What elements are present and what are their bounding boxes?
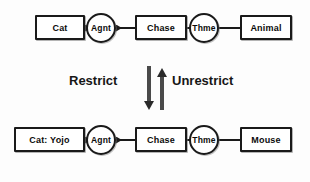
node-concept-chase-bottom[interactable]: Chase	[135, 127, 187, 152]
node-concept-mouse[interactable]: Mouse	[240, 127, 292, 152]
unrestrict-arrow-up	[157, 68, 167, 110]
node-label: Mouse	[251, 135, 281, 145]
node-label: Chase	[147, 135, 175, 145]
node-label: Thme	[192, 135, 215, 145]
node-relation-thme-bottom[interactable]: Thme	[189, 125, 219, 155]
restrict-label: Restrict	[69, 73, 117, 88]
node-concept-cat-yojo[interactable]: Cat: Yojo	[14, 127, 85, 152]
node-label: Cat: Yojo	[29, 135, 69, 145]
node-concept-cat[interactable]: Cat	[35, 15, 85, 40]
unrestrict-label: Unrestrict	[172, 73, 233, 88]
node-label: Thme	[192, 23, 215, 33]
node-label: Agnt	[91, 135, 111, 145]
node-relation-thme-top[interactable]: Thme	[189, 13, 219, 43]
node-label: Chase	[147, 23, 175, 33]
node-concept-chase-top[interactable]: Chase	[135, 15, 187, 40]
restrict-arrow-down	[144, 66, 154, 110]
node-label: Cat	[52, 23, 67, 33]
node-label: Agnt	[91, 23, 111, 33]
node-relation-agnt-bottom[interactable]: Agnt	[86, 125, 116, 155]
diagram-canvas: Cat Agnt Chase Thme Animal Restrict Unre…	[0, 0, 310, 182]
node-concept-animal[interactable]: Animal	[240, 15, 292, 40]
node-label: Animal	[250, 23, 281, 33]
node-relation-agnt-top[interactable]: Agnt	[86, 13, 116, 43]
